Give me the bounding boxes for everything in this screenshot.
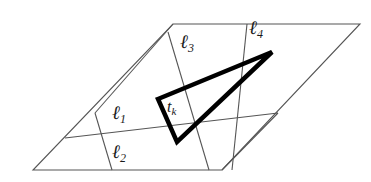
figure-container: ℓ1 ℓ2 ℓ3 ℓ4 tk [0, 0, 371, 182]
label-tk: tk [167, 99, 176, 115]
label-l4: ℓ4 [249, 18, 263, 37]
label-l1-symbol: ℓ [112, 101, 120, 123]
label-l1: ℓ1 [112, 103, 126, 122]
label-l2-symbol: ℓ [112, 140, 120, 162]
line-extra-lower-right [222, 113, 278, 170]
label-l3: ℓ3 [180, 32, 194, 51]
geometry-diagram-svg [0, 0, 371, 182]
label-l2-subscript: 2 [120, 151, 126, 165]
outer-parallelogram [33, 24, 360, 170]
label-l1-subscript: 1 [120, 112, 126, 126]
triangle-tk [158, 52, 272, 142]
label-l2: ℓ2 [112, 142, 126, 161]
line-l2 [95, 113, 112, 170]
label-l4-symbol: ℓ [249, 16, 257, 38]
label-tk-subscript: k [171, 105, 176, 117]
label-l4-subscript: 4 [257, 27, 263, 41]
line-l4 [232, 24, 247, 170]
label-l3-subscript: 3 [188, 41, 194, 55]
label-l3-symbol: ℓ [180, 30, 188, 52]
